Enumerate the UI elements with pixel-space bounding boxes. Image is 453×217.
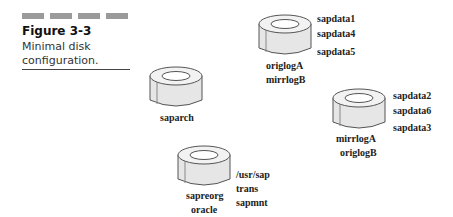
disk-3-label-1: sapdata2: [393, 90, 431, 101]
figure-number: Figure 3-3: [22, 24, 91, 38]
disk-4-bottom-1: sapreorg: [186, 190, 224, 201]
disk-3-label-3: sapdata3: [393, 122, 431, 133]
figure-header-bars: [22, 13, 128, 19]
header-bar: [22, 13, 44, 19]
disk-icon: [330, 86, 388, 132]
header-bar: [50, 13, 72, 19]
disk-4-label-3: sapmnt: [236, 197, 268, 208]
header-bar: [106, 13, 128, 19]
disk-3-bottom-1: mirrlogA: [336, 133, 376, 144]
disk-1-label-2: sapdata4: [317, 28, 355, 39]
disk-1-label-1: sapdata1: [317, 13, 355, 24]
disk-icon: [256, 12, 314, 58]
caption-divider: [22, 69, 130, 70]
header-bar: [78, 13, 100, 19]
disk-icon: [147, 64, 205, 110]
disk-3-label-2: sapdata6: [393, 105, 431, 116]
disk-4-label-1: /usr/sap: [236, 169, 270, 180]
disk-1-label-3: sapdata5: [317, 46, 355, 57]
disk-3-bottom-2: origlogB: [340, 147, 377, 158]
disk-1-bottom-1: origlogA: [266, 60, 303, 71]
disk-4-label-2: trans: [236, 183, 258, 194]
disk-1-bottom-2: mirrlogB: [266, 74, 305, 85]
disk-2-bottom-1: saparch: [160, 112, 194, 123]
figure-caption: Minimal disk configuration.: [22, 40, 132, 68]
disk-4-bottom-2: oracle: [191, 204, 217, 215]
disk-icon: [175, 143, 233, 189]
